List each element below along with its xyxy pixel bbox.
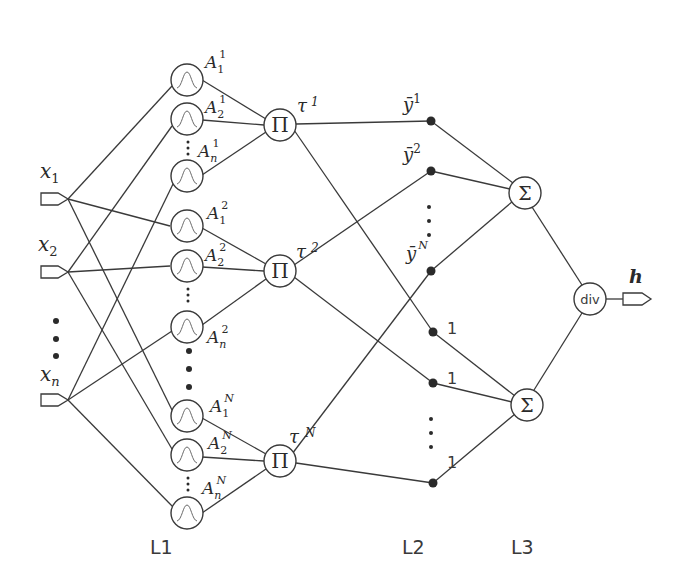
membership-node-an-n: AnN [171, 474, 226, 529]
sigma-icon: Σ [520, 394, 533, 416]
weight-node-y1: ȳ1 [402, 92, 436, 126]
svg-text:A21: A21 [203, 93, 226, 121]
unit-weight-ellipsis [429, 417, 433, 449]
weight-node-y2: ȳ2 [402, 142, 436, 176]
svg-text:x2: x2 [38, 232, 58, 259]
product-icon: Π [271, 259, 288, 283]
svg-text:A11: A11 [203, 48, 226, 76]
membership-node-a2-1: A21 [171, 93, 226, 135]
sigma-icon: Σ [518, 182, 531, 204]
svg-text:τ1: τ1 [297, 95, 319, 116]
weight-ellipsis [427, 205, 431, 237]
svg-text:τ2: τ2 [296, 241, 319, 262]
input-edges [68, 86, 174, 508]
svg-text:ȳ1: ȳ1 [402, 92, 421, 115]
svg-text:A12: A12 [205, 199, 228, 227]
unit-weight-node-1: 1 [429, 319, 458, 338]
svg-text:div: div [580, 292, 600, 307]
product-icon: Π [271, 113, 288, 137]
input-x2: x2 [38, 232, 68, 278]
input-pin-icon [41, 266, 68, 278]
weight-node-yn: ȳN [405, 239, 436, 276]
membership-node-an-2: An2 [171, 311, 228, 351]
input-x1: x1 [40, 159, 68, 205]
group-ellipsis [186, 348, 192, 390]
layer-label-l2: L2 [402, 536, 425, 558]
membership-node-a1-n: A1N [171, 392, 234, 432]
unit-weight-node-n: 1 [429, 453, 458, 488]
input-ellipsis [53, 318, 59, 359]
membership-ellipsis [187, 141, 190, 156]
weight-edges [431, 121, 515, 483]
svg-text:x1: x1 [40, 159, 60, 186]
membership-node-an-1: An1 [171, 137, 219, 192]
svg-text:ȳ2: ȳ2 [402, 142, 421, 165]
output-pin-icon [623, 293, 651, 305]
layer-label-l3: L3 [511, 536, 534, 558]
svg-text:1: 1 [447, 319, 457, 338]
sum-node-numerator: Σ [509, 177, 541, 209]
input-xn: xn [40, 362, 68, 406]
svg-text:A2N: A2N [206, 429, 232, 457]
svg-text:A1N: A1N [208, 392, 234, 420]
divide-node: div [574, 283, 606, 315]
svg-text:τN: τN [289, 426, 316, 447]
input-pin-icon [41, 193, 68, 205]
svg-text:1: 1 [447, 369, 457, 388]
membership-node-a1-2: A12 [171, 199, 228, 242]
membership-node-a1-1: A11 [171, 48, 226, 96]
product-icon: Π [271, 449, 288, 473]
svg-text:1: 1 [447, 453, 457, 472]
membership-ellipsis [187, 288, 190, 303]
fuzzy-network-diagram: x1 x2 xn A11 A21 An1 A12 A2 [0, 0, 681, 587]
product-node-n: Π τN [264, 426, 316, 477]
svg-text:An1: An1 [196, 137, 219, 165]
product-node-2: Π τ2 [264, 241, 319, 287]
membership-node-a2-n: A2N [171, 429, 232, 471]
svg-text:xn: xn [40, 362, 60, 389]
svg-text:A22: A22 [203, 241, 226, 269]
membership-ellipsis [187, 477, 190, 492]
membership-node-a2-2: A22 [171, 241, 226, 282]
input-pin-icon [41, 394, 68, 406]
svg-text:AnN: AnN [200, 474, 226, 502]
svg-text:An2: An2 [205, 323, 228, 351]
sum-node-denominator: Σ [511, 389, 543, 421]
product-node-1: Π τ1 [264, 95, 319, 141]
svg-text:h: h [629, 265, 643, 287]
layer-label-l1: L1 [150, 536, 173, 558]
output-h: h [623, 265, 651, 305]
svg-text:ȳN: ȳN [405, 239, 428, 264]
